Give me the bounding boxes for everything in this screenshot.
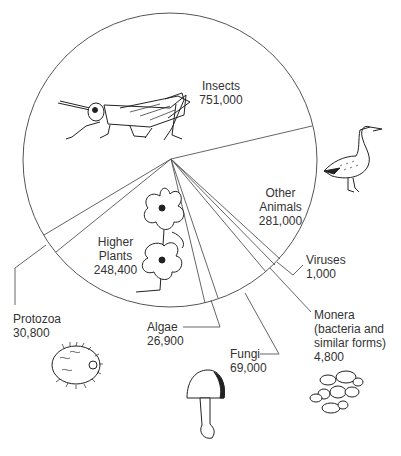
label-viruses: Viruses 1,000: [306, 253, 346, 281]
protozoan-illustration: [52, 342, 103, 389]
label-higher-plants-value: 248,400: [88, 263, 143, 277]
label-protozoa: Protozoa 30,800: [13, 312, 61, 340]
label-insects-name: Insects: [196, 79, 246, 93]
pie-chart: [0, 0, 401, 456]
label-protozoa-value: 30,800: [13, 326, 61, 340]
label-fungi-value: 69,000: [230, 361, 267, 375]
label-viruses-name: Viruses: [306, 253, 346, 267]
label-other-animals-value: 281,000: [253, 214, 308, 228]
label-other-animals-line1: Other: [253, 186, 308, 200]
label-monera-value: 4,800: [314, 350, 386, 364]
label-higher-plants-line2: Plants: [88, 249, 143, 263]
label-insects: Insects 751,000: [196, 79, 246, 107]
label-monera-line2: (bacteria and: [314, 322, 386, 336]
label-higher-plants-line1: Higher: [88, 235, 143, 249]
label-algae: Algae 26,900: [147, 320, 184, 348]
label-algae-name: Algae: [147, 320, 184, 334]
label-other-animals-line2: Animals: [253, 200, 308, 214]
label-higher-plants: Higher Plants 248,400: [88, 235, 143, 277]
label-monera-line3: similar forms): [314, 336, 386, 350]
label-other-animals: Other Animals 281,000: [253, 186, 308, 228]
label-fungi-name: Fungi: [230, 347, 267, 361]
flowers-illustration: [136, 188, 184, 292]
label-algae-value: 26,900: [147, 334, 184, 348]
label-monera-line1: Monera: [314, 308, 386, 322]
label-insects-value: 751,000: [196, 93, 246, 107]
mushroom-illustration: [187, 370, 225, 438]
bacteria-illustration: [310, 371, 363, 413]
label-viruses-value: 1,000: [306, 267, 346, 281]
bird-illustration: [324, 126, 382, 192]
label-monera: Monera (bacteria and similar forms) 4,80…: [314, 308, 386, 364]
label-fungi: Fungi 69,000: [230, 347, 267, 375]
grasshopper-illustration: [58, 93, 190, 140]
label-protozoa-name: Protozoa: [13, 312, 61, 326]
